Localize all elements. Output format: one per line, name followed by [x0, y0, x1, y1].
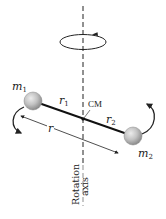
mass-1-ball: [24, 92, 42, 110]
distance-r-arrow: [21, 116, 118, 153]
cm-label: CM: [88, 99, 102, 109]
mass-2-motion-arrow-icon: [142, 104, 154, 134]
r2-label: r2: [106, 113, 116, 127]
rotation-diagram: m1 r1 CM r2 m2 r Rotation axis: [0, 0, 166, 219]
distance-r-label: r: [48, 122, 54, 135]
svg-text:axis: axis: [79, 177, 90, 196]
mass-2-label: m2: [138, 147, 153, 161]
mass-1-motion-arrow-icon: [13, 107, 24, 133]
rotation-axis-label: Rotation axis: [70, 164, 90, 207]
mass-2-ball: [124, 127, 142, 145]
mass-1-label: m1: [12, 80, 27, 94]
cm-leader-line: [84, 110, 90, 118]
r1-label: r1: [59, 94, 69, 108]
